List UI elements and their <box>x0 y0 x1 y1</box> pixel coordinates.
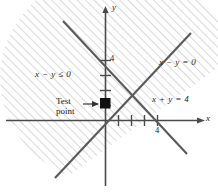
y-axis-label: y <box>112 3 116 12</box>
region-inequality-label: x − y ≤ 0 <box>35 70 71 79</box>
test-point-caption-line1: Test <box>56 96 75 106</box>
line-label-x-minus-y-equals-0: x − y = 0 <box>159 58 196 67</box>
y-tick-label-4: 4 <box>110 54 114 63</box>
graph-figure: y x 4 4 x − y ≤ 0 x − y = 0 x + y = 4 Te… <box>0 0 218 195</box>
test-point-marker <box>100 98 111 109</box>
x-tick-label-4: 4 <box>155 126 159 135</box>
test-point-caption-line2: point <box>56 106 75 116</box>
line-label-x-plus-y-equals-4: x + y = 4 <box>152 95 189 104</box>
x-axis-label: x <box>206 114 210 123</box>
test-point-caption: Test point <box>56 96 75 116</box>
